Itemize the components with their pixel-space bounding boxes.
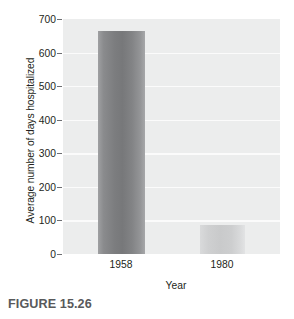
gridline xyxy=(63,86,280,87)
y-tick-mark xyxy=(57,120,62,121)
y-tick-label: 500 xyxy=(26,81,56,92)
y-tick-label: 400 xyxy=(26,114,56,125)
y-tick-mark xyxy=(57,220,62,221)
y-tick-label: 100 xyxy=(26,215,56,226)
plot-area xyxy=(63,19,280,254)
x-tick-label-1980: 1980 xyxy=(192,259,252,270)
y-tick-label: 600 xyxy=(26,47,56,58)
y-tick-label: 700 xyxy=(26,14,56,25)
gridline xyxy=(63,153,280,154)
y-tick-label: 300 xyxy=(26,148,56,159)
figure-caption: FIGURE 15.26 xyxy=(8,297,92,311)
gridline xyxy=(63,220,280,221)
y-tick-mark xyxy=(57,86,62,87)
gridline xyxy=(63,120,280,121)
y-axis-tick-labels: 700 600 500 400 300 200 100 0 xyxy=(26,0,56,319)
x-axis-title: Year xyxy=(62,280,290,291)
gridline xyxy=(63,187,280,188)
bar-1958 xyxy=(98,31,145,254)
y-tick-mark xyxy=(57,153,62,154)
gridline xyxy=(63,53,280,54)
y-tick-mark xyxy=(57,19,62,20)
y-tick-mark xyxy=(57,187,62,188)
y-tick-label: 0 xyxy=(26,249,56,260)
y-tick-mark xyxy=(57,53,62,54)
x-tick-label-1958: 1958 xyxy=(91,259,151,270)
y-tick-label: 200 xyxy=(26,181,56,192)
bar-1980 xyxy=(200,225,245,255)
y-tick-mark xyxy=(57,254,62,255)
figure-container: Average number of days hospitalized 700 … xyxy=(0,0,294,319)
